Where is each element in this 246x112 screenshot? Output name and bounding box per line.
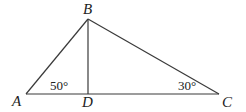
vertex-label-d: D <box>81 94 93 110</box>
vertex-label-a: A <box>11 93 22 109</box>
segment-bc <box>88 19 219 94</box>
angle-label-a: 50° <box>50 78 68 93</box>
triangle-diagram: B A D C 50° 30° <box>0 0 246 112</box>
vertex-label-b: B <box>83 1 92 17</box>
vertex-label-c: C <box>222 94 233 110</box>
angle-label-c: 30° <box>178 78 196 93</box>
